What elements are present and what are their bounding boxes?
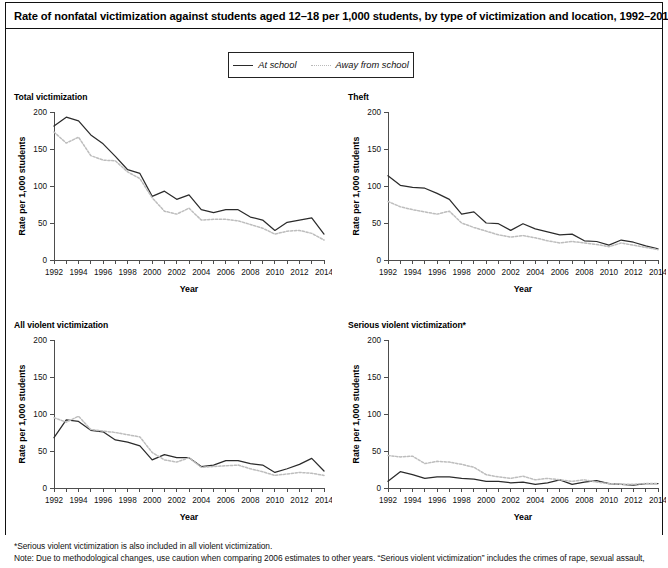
svg-text:2000: 2000 (143, 268, 162, 277)
legend-line-solid-icon (233, 65, 253, 66)
svg-text:2006: 2006 (551, 496, 570, 505)
svg-text:2012: 2012 (624, 496, 643, 505)
series-away-from-school (54, 132, 324, 240)
svg-text:1998: 1998 (119, 268, 138, 277)
svg-text:2004: 2004 (526, 268, 545, 277)
svg-text:150: 150 (33, 145, 47, 154)
svg-text:2012: 2012 (290, 496, 309, 505)
svg-text:200: 200 (33, 108, 47, 117)
svg-text:150: 150 (367, 373, 381, 382)
line-chart: 0501001502001992199419961998200020022004… (348, 104, 666, 306)
svg-text:2002: 2002 (502, 496, 521, 505)
series-away-from-school (388, 455, 658, 484)
plot-area: 0501001502001992199419961998200020022004… (14, 332, 332, 534)
svg-text:0: 0 (376, 256, 381, 265)
svg-text:2014: 2014 (315, 496, 332, 505)
svg-text:1996: 1996 (428, 268, 447, 277)
svg-text:2002: 2002 (502, 268, 521, 277)
svg-text:2014: 2014 (315, 268, 332, 277)
plot-area: 0501001502001992199419961998200020022004… (14, 104, 332, 306)
svg-text:2004: 2004 (192, 268, 211, 277)
svg-text:150: 150 (367, 145, 381, 154)
svg-text:0: 0 (42, 484, 47, 493)
series-at-school (388, 176, 658, 249)
series-away-from-school (388, 202, 658, 250)
svg-text:1998: 1998 (453, 268, 472, 277)
panel-title: Theft (348, 92, 369, 102)
svg-text:1992: 1992 (45, 496, 64, 505)
svg-text:150: 150 (33, 373, 47, 382)
svg-text:1992: 1992 (45, 268, 64, 277)
y-axis-title: Rate per 1,000 students (351, 365, 361, 464)
svg-text:1998: 1998 (119, 496, 138, 505)
svg-text:2004: 2004 (526, 496, 545, 505)
svg-text:1998: 1998 (453, 496, 472, 505)
footnote-note: Note: Due to methodological changes, use… (14, 552, 662, 564)
svg-text:1994: 1994 (403, 496, 422, 505)
panel-title: All violent victimization (14, 320, 108, 330)
svg-text:100: 100 (367, 182, 381, 191)
y-axis-title: Rate per 1,000 students (351, 137, 361, 236)
panel-title: Total victimization (14, 92, 87, 102)
svg-text:50: 50 (38, 219, 48, 228)
panel-serious-violent-victimization: Serious violent victimization* 050100150… (348, 320, 668, 540)
title-divider (5, 28, 663, 29)
x-axis-title: Year (514, 284, 533, 294)
svg-text:100: 100 (33, 182, 47, 191)
svg-text:2010: 2010 (600, 496, 619, 505)
svg-text:2010: 2010 (600, 268, 619, 277)
svg-text:100: 100 (367, 410, 381, 419)
series-away-from-school (54, 416, 324, 475)
svg-text:2008: 2008 (241, 496, 260, 505)
svg-text:2000: 2000 (477, 268, 496, 277)
svg-text:50: 50 (372, 447, 382, 456)
svg-text:2010: 2010 (266, 268, 285, 277)
svg-text:1994: 1994 (69, 268, 88, 277)
svg-text:2006: 2006 (551, 268, 570, 277)
svg-text:2000: 2000 (477, 496, 496, 505)
plot-area: 0501001502001992199419961998200020022004… (348, 104, 666, 306)
plot-area: 0501001502001992199419961998200020022004… (348, 332, 666, 534)
svg-text:1996: 1996 (94, 268, 113, 277)
series-at-school (388, 472, 658, 485)
legend-label-away-from-school: Away from school (336, 60, 409, 70)
footnote-asterisk: *Serious violent victimization is also i… (14, 540, 662, 552)
svg-text:200: 200 (367, 108, 381, 117)
chart-legend: At school Away from school (228, 52, 414, 78)
svg-text:2006: 2006 (217, 496, 236, 505)
y-axis-title: Rate per 1,000 students (17, 137, 27, 236)
legend-item-at-school: At school (233, 60, 296, 70)
x-axis-title: Year (514, 512, 533, 522)
panel-theft: Theft 0501001502001992199419961998200020… (348, 92, 668, 312)
line-chart: 0501001502001992199419961998200020022004… (14, 104, 332, 306)
svg-text:0: 0 (376, 484, 381, 493)
page-title: Rate of nonfatal victimization against s… (14, 9, 654, 23)
panel-title: Serious violent victimization* (348, 320, 466, 330)
x-axis-title: Year (180, 284, 199, 294)
figure-notes: *Serious violent victimization is also i… (14, 540, 662, 565)
line-chart: 0501001502001992199419961998200020022004… (348, 332, 666, 534)
svg-text:1992: 1992 (379, 268, 398, 277)
panel-total-victimization: Total victimization 05010015020019921994… (14, 92, 334, 312)
x-axis-title: Year (180, 512, 199, 522)
svg-text:200: 200 (367, 336, 381, 345)
svg-text:2006: 2006 (217, 268, 236, 277)
svg-text:200: 200 (33, 336, 47, 345)
legend-line-dotted-icon (311, 65, 331, 66)
svg-text:2014: 2014 (649, 268, 666, 277)
svg-text:2010: 2010 (266, 496, 285, 505)
svg-text:0: 0 (42, 256, 47, 265)
legend-label-at-school: At school (258, 60, 296, 70)
svg-text:2008: 2008 (241, 268, 260, 277)
figure-page: Rate of nonfatal victimization against s… (0, 0, 668, 568)
legend-item-away-from-school: Away from school (311, 60, 409, 70)
y-axis-title: Rate per 1,000 students (17, 365, 27, 464)
svg-text:2002: 2002 (168, 496, 187, 505)
svg-text:2008: 2008 (575, 496, 594, 505)
svg-text:2014: 2014 (649, 496, 666, 505)
svg-text:2004: 2004 (192, 496, 211, 505)
svg-text:100: 100 (33, 410, 47, 419)
series-at-school (54, 117, 324, 234)
svg-text:1992: 1992 (379, 496, 398, 505)
svg-text:50: 50 (38, 447, 48, 456)
